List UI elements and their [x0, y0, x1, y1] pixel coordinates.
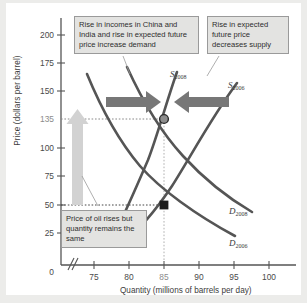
demand-shift-arrow	[106, 91, 161, 113]
curve-label-supply-2008: S2008	[170, 69, 187, 79]
x-tick-100: 100	[257, 272, 281, 282]
y-tick-135: 135	[26, 114, 54, 124]
callout-leader-lines	[82, 56, 219, 206]
curve-label-demand-2008-year: 2008	[236, 211, 248, 217]
y-tick-50: 50	[26, 200, 54, 210]
y-tick-75: 75	[26, 171, 54, 181]
y-tick-0: 0	[26, 267, 54, 277]
supply-shift-arrow	[174, 91, 229, 113]
curve-label-supply-2008-year: 2008	[175, 74, 187, 80]
callout-price-effect: Price of oil rises but quantity remains …	[61, 210, 147, 248]
x-tick-90: 90	[187, 272, 211, 282]
curve-label-supply-2006: S2006	[228, 80, 245, 90]
curve-label-demand-2006-letter: D	[229, 238, 236, 248]
curve-label-demand-2008-letter: D	[229, 206, 236, 216]
y-tick-200: 200	[26, 30, 54, 40]
x-tick-80: 80	[117, 272, 141, 282]
curve-label-demand-2006-year: 2006	[236, 243, 248, 249]
equilibrium-2008-marker	[160, 115, 169, 124]
callout-supply-shift: Rise in expected future price decreases …	[207, 16, 289, 54]
x-axis-label: Quantity (millions of barrels per day)	[120, 286, 252, 295]
y-tick-25: 25	[26, 228, 54, 238]
curve-label-supply-2006-year: 2006	[233, 85, 245, 91]
x-tick-95: 95	[222, 272, 246, 282]
y-tick-175: 175	[26, 58, 54, 68]
curve-label-supply-2008-letter: S	[170, 69, 175, 79]
curve-label-supply-2006-letter: S	[228, 80, 233, 90]
y-axis-label: Price (dollars per barrel)	[13, 46, 22, 156]
y-tick-100: 100	[26, 143, 54, 153]
axis-break-icon	[68, 258, 78, 270]
y-tick-150: 150	[26, 86, 54, 96]
callout-demand-shift: Rise in incomes in China and India and r…	[74, 16, 199, 54]
curve-label-demand-2008: D2008	[229, 206, 248, 216]
equilibrium-2006-marker	[160, 201, 169, 210]
x-tick-85: 85	[152, 272, 176, 282]
curve-label-demand-2006: D2006	[229, 238, 248, 248]
figure-container: Price (dollars per barrel) Quantity (mil…	[0, 0, 307, 303]
x-tick-75: 75	[82, 272, 106, 282]
price-rise-arrow	[67, 109, 89, 205]
